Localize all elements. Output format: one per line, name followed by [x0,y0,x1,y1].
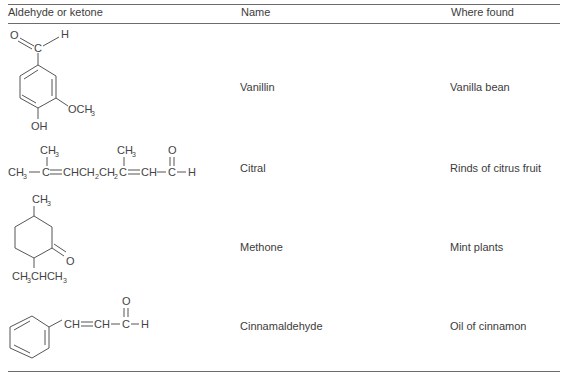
methone-structure: CH 3 O CH 3 CHCH 3 [12,193,75,284]
structures-column: O C H OCH 3 OH CH 3 C CHCH 2 CH 2 C CH C… [0,0,240,375]
svg-text:CH: CH [141,166,157,178]
svg-text:H: H [141,318,149,330]
svg-text:CHCH: CHCH [31,270,63,282]
svg-text:H: H [188,166,196,178]
table-bottom-rule [8,371,560,372]
svg-text:O: O [168,144,177,156]
svg-text:CH: CH [94,318,110,330]
cinnamaldehyde-structure: CH CH C H O [10,295,149,358]
svg-text:CH: CH [99,166,115,178]
svg-text:CH: CH [117,144,133,156]
svg-text:CHCH: CHCH [63,166,95,178]
svg-text:O: O [66,255,75,267]
svg-text:CH: CH [64,318,80,330]
svg-text:C: C [119,166,127,178]
svg-text:H: H [61,28,69,40]
svg-text:3: 3 [132,151,136,158]
svg-text:3: 3 [63,277,67,284]
citral-structure: CH 3 C CHCH 2 CH 2 C CH C H CH 3 CH 3 O [8,144,196,180]
svg-text:CH: CH [32,193,48,205]
svg-text:3: 3 [55,151,59,158]
svg-text:OH: OH [31,120,48,132]
name-cell-methone: Methone [240,241,283,253]
svg-text:3: 3 [23,173,27,180]
svg-text:CH: CH [8,166,24,178]
where-found-cell-cinnamaldehyde: Oil of cinnamon [450,320,526,332]
svg-text:C: C [42,166,50,178]
header-where-found: Where found [451,6,514,18]
where-found-cell-methone: Mint plants [450,241,503,253]
header-name: Name [241,6,270,18]
svg-text:2: 2 [114,173,118,180]
name-cell-citral: Citral [240,162,266,174]
where-found-cell-citral: Rinds of citrus fruit [450,162,541,174]
vanillin-o: O [10,29,19,41]
svg-text:C: C [122,318,130,330]
svg-text:3: 3 [91,110,95,117]
svg-text:OCH: OCH [68,103,93,115]
vanillin-structure: O C H OCH 3 OH [10,28,95,132]
svg-text:CH: CH [40,144,56,156]
svg-text:C: C [34,42,42,54]
svg-text:O: O [122,295,131,307]
name-cell-cinnamaldehyde: Cinnamaldehyde [240,320,323,332]
name-cell-vanillin: Vanillin [240,81,275,93]
svg-text:3: 3 [47,200,51,207]
svg-text:C: C [168,166,176,178]
svg-text:CH: CH [12,270,28,282]
where-found-cell-vanillin: Vanilla bean [450,81,510,93]
